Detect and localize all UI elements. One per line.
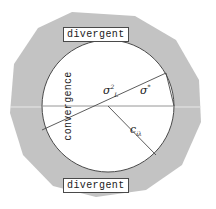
c-il-sub: iλ: [136, 130, 142, 137]
sigma-star-base: σ: [140, 84, 148, 97]
divergent-bottom-label: divergent: [63, 178, 129, 193]
sigma-star-sup: *: [148, 83, 151, 90]
convergence-label: convergence: [63, 70, 75, 142]
sigma-star-math-label: σ*: [140, 83, 151, 97]
divergent-top-label: divergent: [63, 27, 129, 42]
diagram-figure: divergent divergent convergence σ2L σ* c…: [0, 0, 216, 209]
sigma-l-sub: L: [114, 91, 118, 98]
sigma-l-sup: 2: [111, 83, 115, 90]
sigma-l-base: σ: [103, 84, 111, 97]
c-il-math-label: ciλ: [130, 123, 142, 137]
sigma-l-math-label: σ2L: [103, 83, 118, 98]
